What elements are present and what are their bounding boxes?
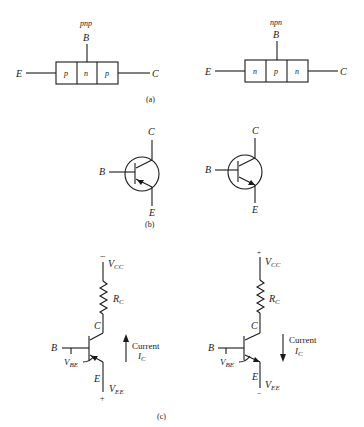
caption-a: (a)	[146, 95, 155, 104]
npn-rc-label: RC	[268, 293, 280, 306]
npn-collector-label: C	[340, 66, 347, 77]
pnp-vbe-label: VBE	[64, 357, 79, 369]
npn-envelope	[228, 155, 262, 189]
pnp-collector-resistor	[100, 281, 107, 314]
npn-current-word: Current	[289, 335, 317, 345]
npn-region-base: p	[273, 67, 278, 76]
pnp-region-emitter: p	[63, 69, 68, 78]
pnp-symbol-collector-diag	[136, 160, 152, 168]
npn-type-label: npn	[270, 18, 282, 27]
npn-region-collector: n	[295, 67, 299, 76]
pnp-symbol-base-label: B	[99, 166, 105, 177]
pnp-base-label: B	[51, 342, 57, 353]
pnp-region-collector: p	[104, 69, 109, 78]
npn-transistor-symbol: C B E	[205, 125, 262, 215]
pnp-transistor-symbol: C B E	[99, 126, 159, 218]
npn-vbe-label: VBE	[220, 357, 235, 369]
npn-region-emitter: n	[253, 67, 257, 76]
npn-vee-polarity: −	[257, 389, 262, 398]
npn-collector-diag	[245, 333, 260, 340]
npn-current-down-arrow-icon	[280, 354, 286, 362]
pnp-current-word: Current	[132, 341, 160, 351]
npn-symbol-collector-diag	[239, 158, 255, 166]
pnp-base-label: B	[83, 32, 89, 43]
pnp-symbol-emitter-label: E	[148, 207, 155, 218]
pnp-vee-polarity: +	[100, 394, 105, 403]
pnp-current-label: IC	[137, 351, 146, 363]
npn-circuit-emitter-arrow-icon	[253, 357, 260, 362]
npn-vcc-label: VCC	[265, 256, 281, 269]
npn-collector-resistor	[257, 280, 264, 313]
npn-block-diagram: npn B n p n E C	[204, 18, 347, 82]
pnp-rc-label: RC	[112, 293, 124, 306]
transistor-figure: pnp B p n p E C npn B n p n E C (a) C	[0, 0, 364, 427]
caption-c: (c)	[157, 412, 166, 421]
caption-b: (b)	[145, 220, 155, 229]
npn-emitter-label: E	[204, 66, 211, 77]
pnp-vee-label: VEE	[109, 383, 124, 396]
npn-bias-circuit: + VCC RC C B VBE E VEE − Current IC	[208, 249, 317, 398]
npn-symbol-emitter-label: E	[251, 204, 258, 215]
npn-base-label: B	[273, 29, 279, 40]
pnp-emitter-label: E	[15, 68, 22, 79]
pnp-region-base: n	[84, 69, 88, 78]
npn-vee-label: VEE	[265, 379, 280, 392]
pnp-collector-diag	[90, 333, 103, 340]
pnp-symbol-collector-label: C	[148, 126, 155, 137]
npn-vcc-polarity: +	[257, 249, 261, 257]
npn-collector-label: C	[251, 320, 258, 331]
pnp-vcc-label: VCC	[108, 258, 124, 271]
npn-symbol-collector-label: C	[252, 125, 259, 136]
npn-emitter-label: E	[251, 371, 258, 382]
pnp-envelope	[125, 157, 159, 191]
pnp-current-up-arrow-icon	[123, 334, 129, 342]
npn-symbol-base-label: B	[205, 164, 211, 175]
pnp-block-diagram: pnp B p n p E C	[15, 19, 159, 84]
npn-current-label: IC	[294, 346, 303, 358]
pnp-collector-label: C	[152, 68, 159, 79]
pnp-type-label: pnp	[79, 19, 92, 28]
pnp-bias-circuit: − VCC RC C B VBE E VEE + Current IC	[51, 251, 160, 403]
npn-base-label: B	[208, 342, 214, 353]
pnp-emitter-label: E	[93, 373, 100, 384]
pnp-vcc-polarity: −	[100, 251, 106, 262]
pnp-collector-label: C	[94, 320, 101, 331]
